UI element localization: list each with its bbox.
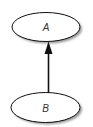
node-b-label: B <box>42 103 49 114</box>
edge-b-to-a <box>45 42 53 93</box>
node-a-label: A <box>42 22 50 33</box>
node-b: B <box>11 93 82 125</box>
node-a: A <box>12 13 82 44</box>
diagram-canvas: A B <box>0 0 93 127</box>
